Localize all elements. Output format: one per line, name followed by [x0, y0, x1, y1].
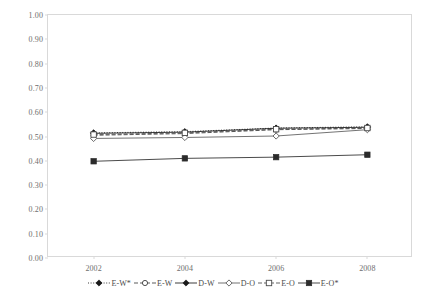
- x-axis-tick-mark: [93, 256, 94, 259]
- chart-root: … 0.000.100.200.300.400.500.600.700.800.…: [0, 0, 430, 296]
- data-point-marker: [273, 154, 278, 159]
- legend-entry-e-o[interactable]: E-O: [258, 278, 298, 288]
- series-line: [94, 128, 368, 135]
- data-point-marker: [266, 280, 271, 285]
- data-point-marker: [182, 130, 187, 135]
- x-axis-tick-label: 2004: [177, 264, 193, 273]
- data-point-marker: [142, 280, 147, 285]
- legend-entry-d-o[interactable]: D-O: [218, 278, 259, 288]
- legend-marker-open-square-icon: [258, 278, 280, 288]
- data-point-marker: [273, 133, 279, 139]
- series-layer: [48, 15, 411, 256]
- y-axis-tick-label: 0.80: [29, 59, 43, 68]
- y-axis-tick-label: 0.00: [29, 254, 43, 263]
- data-point-marker: [182, 156, 187, 161]
- legend-label: E-O*: [321, 279, 339, 288]
- series-e-o-: [91, 152, 370, 164]
- legend-marker-filled-square-icon: [298, 278, 320, 288]
- legend-label: E-O: [281, 279, 295, 288]
- y-axis-tick-label: 0.50: [29, 132, 43, 141]
- y-axis-tick-label: 0.20: [29, 205, 43, 214]
- legend-marker-open-diamond-icon: [218, 278, 240, 288]
- data-point-marker: [226, 280, 232, 286]
- y-axis-tick-label: 0.30: [29, 181, 43, 190]
- data-point-marker: [91, 132, 96, 137]
- x-axis-tick-label: 2008: [359, 264, 375, 273]
- legend-entry-d-w[interactable]: D-W: [175, 278, 217, 288]
- y-axis-tick-label: 0.10: [29, 229, 43, 238]
- legend-marker-open-circle-icon: [134, 278, 156, 288]
- chart-legend: E-W*E-WD-WD-OE-OE-O*: [0, 278, 430, 288]
- x-axis-tick-mark: [367, 256, 368, 259]
- y-axis-tick-mark: [45, 258, 48, 259]
- x-axis-tick-label: 2002: [85, 264, 101, 273]
- legend-label: E-W: [157, 279, 172, 288]
- series-line: [94, 128, 368, 135]
- legend-label: E-W*: [111, 279, 131, 288]
- data-point-marker: [273, 127, 278, 132]
- legend-label: D-O: [241, 279, 256, 288]
- y-axis-tick-label: 1.00: [29, 11, 43, 20]
- data-point-marker: [365, 125, 370, 130]
- x-axis-tick-label: 2006: [268, 264, 284, 273]
- y-axis-tick-label: 0.90: [29, 35, 43, 44]
- legend-marker-filled-diamond-icon: [175, 278, 197, 288]
- x-axis-tick-mark: [184, 256, 185, 259]
- legend-entry-e-o-[interactable]: E-O*: [298, 278, 342, 288]
- data-point-marker: [91, 159, 96, 164]
- legend-entry-e-w[interactable]: E-W: [134, 278, 175, 288]
- data-point-marker: [365, 152, 370, 157]
- legend-entry-e-w-[interactable]: E-W*: [88, 278, 134, 288]
- series-line: [94, 130, 368, 139]
- clipped-title-fragment: …: [57, 0, 79, 1]
- y-axis-tick-label: 0.60: [29, 108, 43, 117]
- plot-area: 0.000.100.200.300.400.500.600.700.800.90…: [47, 14, 412, 257]
- y-axis-tick-label: 0.70: [29, 83, 43, 92]
- x-axis-tick-mark: [276, 256, 277, 259]
- series-line: [94, 155, 368, 162]
- data-point-marker: [183, 280, 189, 286]
- legend-marker-filled-diamond-icon: [88, 278, 110, 288]
- legend-label: D-W: [198, 279, 214, 288]
- y-axis-tick-label: 0.40: [29, 156, 43, 165]
- data-point-marker: [96, 280, 102, 286]
- data-point-marker: [306, 280, 311, 285]
